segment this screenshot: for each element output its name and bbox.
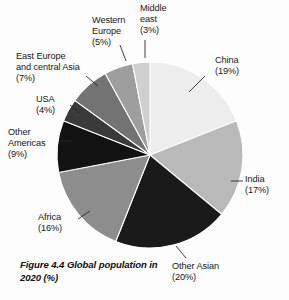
pie-label-middle-east: Middle east (3%)	[140, 3, 186, 37]
figure-container: China (19%) India (17%) Other Asian (20%…	[0, 0, 289, 300]
pie-label-africa: Africa (16%)	[38, 212, 86, 234]
leader-line-other-asian	[176, 246, 186, 258]
figure-caption: Figure 4.4 Global population in 2020 (%)	[20, 258, 160, 284]
pie-label-western-europe: Western Europe (5%)	[92, 15, 140, 49]
pie-label-usa: USA (4%)	[36, 94, 78, 116]
pie-label-other-americas: Other Americas (9%)	[8, 127, 68, 161]
pie-label-other-asian: Other Asian (20%)	[172, 261, 242, 283]
pie-label-east-europe-and-central-asia: East Europe and central Asia (7%)	[16, 51, 96, 85]
pie-label-india: India (17%)	[245, 174, 289, 196]
pie-label-china: China (19%)	[215, 55, 263, 77]
